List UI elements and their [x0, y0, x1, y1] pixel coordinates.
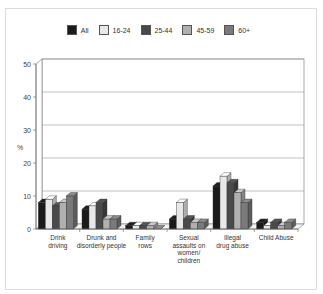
- y-tick-label: 0: [27, 226, 31, 233]
- x-category-label: Sexual: [179, 234, 199, 241]
- bar: [220, 176, 227, 229]
- bar: [52, 206, 59, 229]
- bar: [234, 193, 241, 229]
- bar: [82, 209, 89, 229]
- y-tick-label: 20: [23, 160, 31, 167]
- bar: [140, 226, 147, 229]
- bar: [176, 203, 183, 229]
- bar: [133, 226, 140, 229]
- bar: [241, 203, 248, 229]
- x-category-label: drug abuse: [216, 242, 249, 250]
- bar: [110, 219, 117, 229]
- x-category-label: Drink: [50, 234, 66, 241]
- bar: [45, 199, 52, 229]
- bar-group: [257, 219, 296, 229]
- y-tick-label: 10: [23, 193, 31, 200]
- bar: [183, 219, 190, 229]
- x-category-label: children: [177, 257, 200, 264]
- bar: [264, 226, 271, 229]
- bar: [257, 222, 264, 229]
- bar: [66, 196, 73, 229]
- x-category-label: women/: [176, 249, 200, 256]
- bar: [190, 222, 197, 229]
- x-category-label: assaults on: [172, 242, 205, 249]
- bar: [38, 203, 45, 229]
- bar: [103, 219, 110, 229]
- bar: [285, 222, 292, 229]
- x-category-label: Child Abuse: [259, 234, 294, 241]
- y-tick-label: 40: [23, 94, 31, 101]
- y-axis-label: %: [17, 144, 23, 151]
- y-tick-label: 30: [23, 127, 31, 134]
- x-category-label: disorderly people: [77, 242, 127, 250]
- bar: [278, 226, 285, 229]
- bar: [147, 226, 154, 229]
- x-category-label: driving: [48, 242, 68, 250]
- bar-chart: 01020304050%DrinkdrivingDrunk anddisorde…: [0, 0, 323, 294]
- y-tick-label: 50: [23, 61, 31, 68]
- bar: [227, 183, 234, 229]
- x-category-label: rows: [138, 242, 152, 249]
- bar: [197, 222, 204, 229]
- bar: [169, 219, 176, 229]
- bar: [271, 222, 278, 229]
- x-category-label: Drunk and: [87, 234, 117, 241]
- bar: [126, 226, 133, 229]
- bar: [96, 203, 103, 229]
- bar: [59, 203, 66, 229]
- bar: [89, 206, 96, 229]
- bar: [213, 186, 220, 229]
